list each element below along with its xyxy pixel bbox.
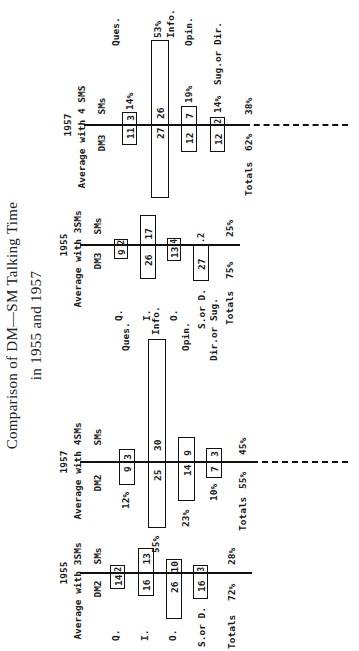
bar-opin: 12 7 bbox=[181, 106, 197, 152]
row-pct: 10% bbox=[208, 484, 219, 501]
sm-value: .2 bbox=[196, 233, 206, 243]
totals-label: Totals bbox=[243, 162, 254, 196]
bar-ques: 11 3 bbox=[122, 112, 137, 145]
bar-info: 25 30 bbox=[148, 339, 166, 528]
row-label: S.or D. bbox=[196, 607, 207, 647]
dm-total: 72% bbox=[226, 584, 237, 601]
totals-label: Totals bbox=[224, 291, 235, 325]
panel-subtitle: Average with 4 SMS bbox=[76, 86, 87, 189]
bar-s-or-d: 16 3 bbox=[193, 565, 208, 599]
dm-label: DM2 bbox=[92, 474, 103, 491]
bar-o: 26 10 bbox=[166, 559, 182, 619]
dm-total: 62% bbox=[243, 134, 254, 151]
panel-year: 1955 bbox=[58, 234, 69, 257]
bar-info: 27 26 bbox=[151, 40, 169, 198]
dashed-axis-extension bbox=[252, 461, 348, 463]
bar-i: 16 13 bbox=[138, 548, 154, 596]
bar-i: 26 17 bbox=[140, 215, 156, 279]
row-pct: 23% bbox=[180, 510, 191, 527]
panel-year: 1955 bbox=[58, 562, 69, 585]
row-label: I. bbox=[139, 630, 150, 641]
center-axis bbox=[80, 244, 240, 246]
row-label: O. bbox=[168, 310, 179, 321]
panel-year: 1957 bbox=[62, 114, 73, 137]
sm-total: 45% bbox=[237, 438, 248, 455]
row-pct: 14% bbox=[212, 96, 223, 113]
row-pct: 53% bbox=[152, 21, 163, 38]
panel-subtitle: Average with 4SMs bbox=[72, 422, 83, 519]
figure-title-line2: in 1955 and 1957 bbox=[28, 0, 45, 651]
bar-dir-or-sug: 7 3 bbox=[206, 448, 222, 478]
row-pct: 14% bbox=[124, 93, 135, 110]
bar-q: 9 2 bbox=[114, 239, 128, 259]
row-label: Sug.or Dir. bbox=[212, 22, 223, 85]
sm-total: 28% bbox=[226, 548, 237, 565]
bar-o: 13 4 bbox=[167, 238, 181, 261]
row-label: Info. bbox=[165, 9, 176, 38]
bar-ques: 9 3 bbox=[119, 449, 135, 485]
row-pct: 55% bbox=[150, 536, 161, 553]
bar-s-or-d: 27 bbox=[193, 245, 209, 281]
row-label: Opin. bbox=[183, 17, 194, 46]
bar-sug-or-dir: 12 2 bbox=[210, 117, 225, 152]
row-label: I. bbox=[141, 310, 152, 321]
dm-label: DM3 bbox=[96, 134, 107, 151]
sm-label: SMs bbox=[96, 97, 107, 114]
dm-total: 75% bbox=[224, 262, 235, 279]
row-label: Ques. bbox=[110, 17, 121, 46]
rotated-figure: Comparison of DM—SM Talking Time in 1955… bbox=[0, 0, 359, 651]
dashed-axis-extension bbox=[244, 124, 348, 126]
row-label: Dir.or Sug. bbox=[208, 298, 219, 361]
row-label: Opin. bbox=[180, 322, 191, 351]
bar-q: 14 2 bbox=[110, 565, 125, 589]
totals-label: Totals bbox=[226, 615, 237, 649]
figure-title-line1: Comparison of DM—SM Talking Time bbox=[4, 0, 21, 651]
center-axis bbox=[80, 461, 252, 463]
sm-total: 25% bbox=[224, 220, 235, 237]
row-label: Ques. bbox=[120, 322, 131, 351]
panel-subtitle: Average with 3SMs bbox=[72, 542, 83, 639]
panel-year: 1957 bbox=[58, 451, 69, 474]
row-label: Q. bbox=[113, 310, 124, 321]
bar-opin: 14 9 bbox=[178, 437, 195, 501]
dm-label: DM2 bbox=[92, 580, 103, 597]
sm-total: 38% bbox=[243, 98, 254, 115]
sm-label: SMs bbox=[92, 428, 103, 445]
dm-total: 55% bbox=[237, 472, 248, 489]
row-pct: 12% bbox=[120, 492, 131, 509]
row-label: O. bbox=[167, 630, 178, 641]
row-pct: 19% bbox=[183, 86, 194, 103]
totals-label: Totals bbox=[237, 497, 248, 531]
dm-label: DM3 bbox=[92, 252, 103, 269]
panel-subtitle: Average with 3SMs bbox=[72, 210, 83, 307]
sm-label: SMs bbox=[92, 547, 103, 564]
row-label: Q. bbox=[110, 630, 121, 641]
sm-label: SMs bbox=[92, 217, 103, 234]
row-label: S.or D. bbox=[196, 289, 207, 329]
